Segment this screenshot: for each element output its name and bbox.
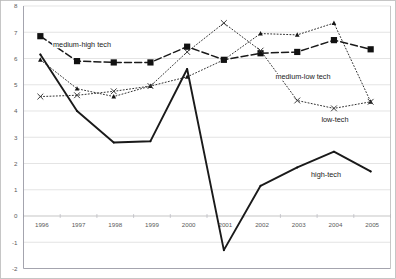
y-tick-label: 7 (14, 29, 18, 36)
x-tick-label: 2001 (218, 221, 232, 228)
series-line (40, 23, 370, 108)
line-chart: 876543210-1-2199619971998199920002001200… (0, 0, 396, 279)
data-point-marker (333, 151, 335, 153)
data-point-marker (221, 20, 227, 26)
data-point-marker (184, 49, 190, 55)
y-tick-label: 8 (14, 2, 18, 9)
y-tick-label: 0 (14, 212, 18, 219)
y-tick-label: 4 (14, 107, 18, 114)
data-point-marker (147, 59, 153, 65)
y-tick-label: -1 (12, 239, 18, 246)
data-point-marker (113, 142, 115, 144)
x-tick-label: 2000 (182, 221, 196, 228)
series-line (40, 23, 370, 102)
data-point-marker (39, 54, 41, 56)
series-high-tech (39, 54, 371, 252)
x-tick-label: 1998 (108, 221, 122, 228)
data-point-marker (223, 249, 225, 251)
series-group (37, 20, 374, 251)
y-tick-label: 5 (14, 81, 18, 88)
data-point-marker (294, 49, 300, 55)
data-point-marker (370, 170, 372, 172)
series-medium-high-tech (37, 33, 374, 65)
x-tick-label: 1996 (35, 221, 49, 228)
chart-canvas: 876543210-1-2199619971998199920002001200… (0, 0, 396, 279)
data-point-marker (184, 44, 190, 50)
x-tick-label: 2005 (365, 221, 379, 228)
x-tick-label: 1999 (145, 221, 159, 228)
x-tick-label: 1997 (72, 221, 86, 228)
y-tick-label: 1 (14, 186, 18, 193)
data-point-marker (74, 58, 80, 64)
data-point-marker (76, 110, 78, 112)
series-low-tech (37, 20, 373, 111)
data-point-marker (331, 105, 337, 111)
data-point-marker (332, 21, 337, 25)
series-label: low-tech (321, 115, 348, 124)
series-label: high-tech (311, 170, 341, 179)
data-point-marker (186, 68, 188, 70)
data-point-marker (111, 94, 116, 98)
data-point-marker (331, 37, 337, 43)
data-point-marker (37, 33, 43, 39)
x-tick-label: 2002 (255, 221, 269, 228)
data-point-marker (75, 86, 80, 90)
y-tick-label: 2 (14, 160, 18, 167)
y-tick-label: 3 (14, 134, 18, 141)
data-point-marker (37, 94, 43, 100)
data-point-marker (295, 32, 300, 36)
data-point-marker (296, 166, 298, 168)
series-line (40, 55, 370, 251)
data-point-marker (149, 140, 151, 142)
series-label: medium-high tech (53, 40, 111, 49)
data-point-marker (368, 46, 374, 52)
data-point-marker (260, 185, 262, 187)
y-axis-tick-labels: 876543210-1-2 (12, 2, 18, 272)
data-point-marker (111, 59, 117, 65)
x-tick-label: 2003 (292, 221, 306, 228)
series-label: medium-low tech (275, 72, 330, 81)
series-annotations: medium-high techmedium-high techmedium-l… (53, 40, 349, 179)
y-tick-label: 6 (14, 55, 18, 62)
x-axis-tick-labels: 1996199719981999200020012002200320042005 (35, 221, 380, 228)
x-tick-label: 2004 (329, 221, 343, 228)
y-tick-label: -2 (12, 265, 18, 272)
